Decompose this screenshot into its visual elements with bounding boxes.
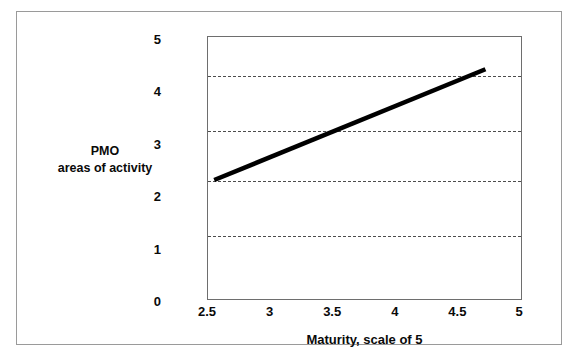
y-tick-label-5: 5	[121, 33, 161, 46]
figure-outer-frame: 5 4 3 2 1 0 PMO areas of activity 2.5 3	[16, 11, 562, 345]
y-tick-label-4: 4	[121, 85, 161, 98]
series-line-chart	[208, 37, 521, 299]
y-tick-label-0: 0	[121, 295, 161, 308]
plot-area	[207, 36, 522, 300]
y-axis-title: PMO areas of activity	[35, 143, 175, 177]
y-axis-title-line-1: PMO	[35, 143, 175, 160]
x-tick-label-5: 5	[496, 304, 542, 319]
x-tick-label-3: 3	[247, 304, 293, 319]
y-axis-title-line-2: areas of activity	[35, 160, 175, 177]
x-tick-label-3.5: 3.5	[309, 304, 355, 319]
series-line-pmo-vs-maturity	[214, 69, 485, 180]
x-tick-label-4.5: 4.5	[434, 304, 480, 319]
figure-root: 5 4 3 2 1 0 PMO areas of activity 2.5 3	[0, 0, 578, 357]
y-tick-label-1: 1	[121, 243, 161, 256]
x-axis-tick-labels: 2.5 3 3.5 4 4.5 5	[207, 304, 522, 324]
x-axis-title: Maturity, scale of 5	[207, 332, 522, 347]
y-tick-label-2: 2	[121, 190, 161, 203]
x-tick-label-4: 4	[372, 304, 418, 319]
y-axis-tick-labels: 5 4 3 2 1 0	[117, 12, 161, 357]
x-tick-label-2.5: 2.5	[184, 304, 230, 319]
